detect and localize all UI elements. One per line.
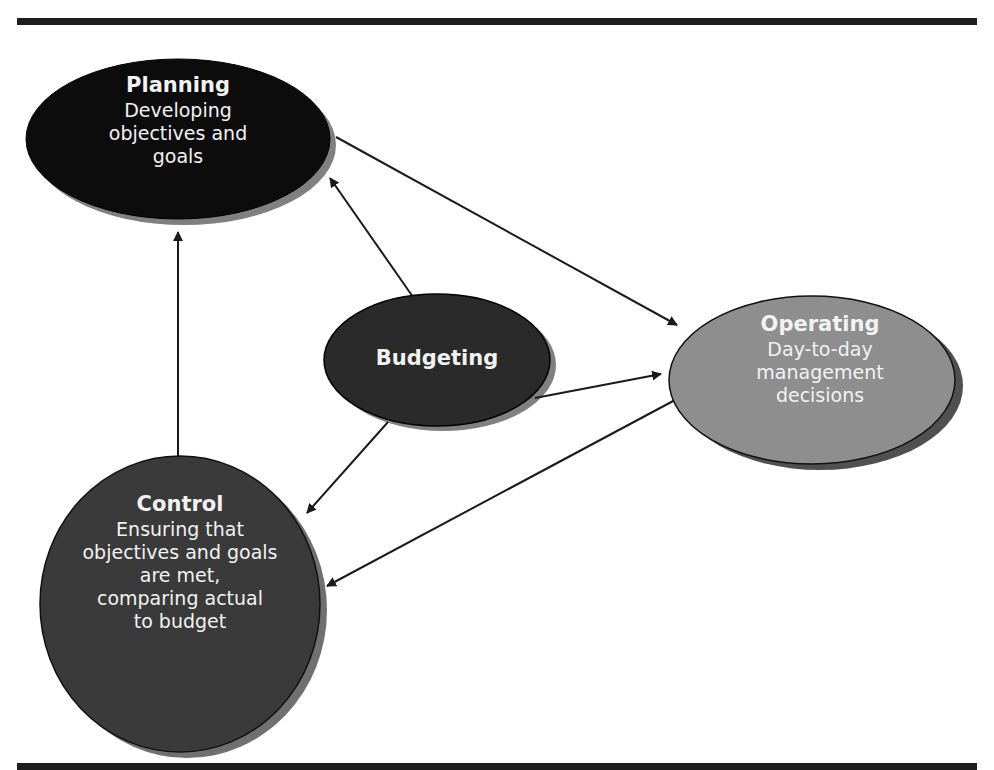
budgeting-label: Budgeting (337, 346, 537, 372)
operating-desc-line: Day-to-day (700, 338, 940, 361)
planning-desc-line: goals (48, 145, 308, 168)
control-label: Control Ensuring that objectives and goa… (50, 492, 310, 633)
planning-desc-line: objectives and (48, 122, 308, 145)
control-desc-line: comparing actual (50, 587, 310, 610)
operating-label: Operating Day-to-day management decision… (700, 312, 940, 407)
control-desc-line: are met, (50, 564, 310, 587)
control-title: Control (50, 492, 310, 518)
arrow-budgeting-to-control (307, 422, 388, 513)
arrow-operating-to-control (327, 400, 675, 586)
control-desc-line: objectives and goals (50, 541, 310, 564)
operating-desc-line: decisions (700, 384, 940, 407)
planning-title: Planning (48, 73, 308, 99)
control-desc-line: to budget (50, 610, 310, 633)
operating-desc-line: management (700, 361, 940, 384)
budgeting-title: Budgeting (337, 346, 537, 372)
operating-title: Operating (700, 312, 940, 338)
control-desc-line: Ensuring that (50, 518, 310, 541)
arrow-planning-to-operating (336, 137, 677, 325)
planning-desc-line: Developing (48, 99, 308, 122)
planning-label: Planning Developing objectives and goals (48, 73, 308, 168)
arrow-budgeting-to-planning (330, 178, 413, 297)
